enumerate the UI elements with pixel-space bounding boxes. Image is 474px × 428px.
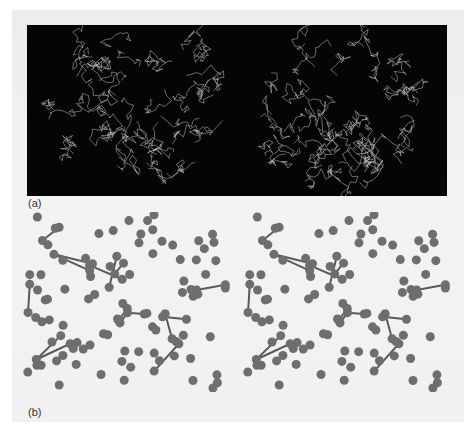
panel-b-label: (b): [28, 406, 41, 418]
wireframe-image: [27, 25, 447, 196]
panel-b-ballstick-stereo: [22, 212, 454, 392]
panel-a-wireframe-stereo: [27, 25, 447, 196]
panel-a-label: (a): [28, 197, 41, 209]
ball-and-stick-image: [22, 212, 454, 392]
